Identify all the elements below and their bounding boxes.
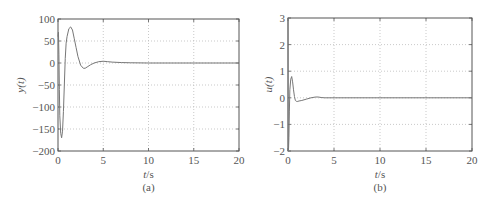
figure: 05101520100500−50−100−150−200t/sy(t)(a) …: [0, 0, 495, 199]
x-tick-label: 15: [188, 154, 200, 166]
y-tick-label: −100: [32, 101, 55, 113]
y-tick-label: 3: [280, 12, 286, 24]
x-tick-label: 20: [467, 154, 479, 166]
x-tick-label: 0: [285, 154, 291, 166]
y-tick-label: 0: [50, 57, 56, 69]
x-tick-label: 0: [55, 154, 61, 166]
y-tick-label: −2: [273, 145, 285, 157]
y-tick-label: 1: [280, 65, 286, 77]
y-tick-label: −50: [38, 79, 56, 91]
x-axis-label: t/s: [375, 168, 385, 180]
panel-caption: (a): [142, 181, 155, 194]
chart-panel-b: 051015203210−1−2t/su(t)(b): [262, 12, 478, 194]
x-tick-label: 5: [331, 154, 337, 166]
y-tick-label: −1: [273, 118, 285, 130]
y-tick-label: 100: [39, 13, 56, 25]
chart-panel-a: 05101520100500−50−100−150−200t/sy(t)(a): [14, 13, 245, 194]
panel-caption: (b): [374, 181, 387, 194]
x-tick-label: 5: [101, 154, 107, 166]
y-axis-label: u(t): [262, 76, 275, 92]
y-tick-label: 0: [280, 92, 286, 104]
x-axis-label-unit: /s: [378, 168, 385, 180]
x-tick-label: 15: [421, 154, 433, 166]
y-tick-label: 50: [44, 35, 56, 47]
y-tick-label: 2: [280, 39, 286, 51]
y-tick-label: −150: [32, 123, 55, 135]
x-tick-label: 20: [234, 154, 246, 166]
x-tick-label: 10: [143, 154, 155, 166]
x-axis-label-unit: /s: [146, 168, 153, 180]
y-axis-label: y(t): [14, 77, 27, 94]
x-tick-label: 10: [375, 154, 387, 166]
x-axis-label: t/s: [143, 168, 153, 180]
y-tick-label: −200: [32, 145, 55, 157]
